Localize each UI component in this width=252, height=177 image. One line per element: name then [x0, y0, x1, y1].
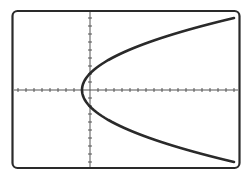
plot-area [0, 0, 252, 177]
calculator-screen: Graph of a parabola opening to the right [0, 0, 252, 177]
